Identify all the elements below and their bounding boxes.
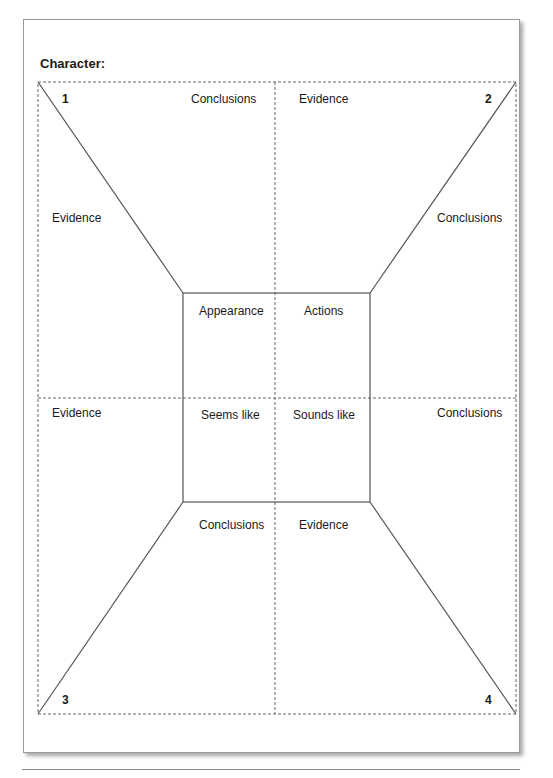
label-right-lower-conclusions: Conclusions [437, 406, 502, 420]
label-left-upper-evidence: Evidence [52, 211, 101, 225]
diagonal-top-right [370, 82, 516, 293]
center-square [183, 293, 370, 502]
label-seems-like: Seems like [201, 408, 260, 422]
corner-number-1: 1 [62, 92, 69, 106]
label-appearance: Appearance [199, 304, 264, 318]
label-left-lower-evidence: Evidence [52, 406, 101, 420]
label-bottom-left-conclusions: Conclusions [199, 518, 264, 532]
corner-number-3: 3 [62, 693, 69, 707]
label-right-upper-conclusions: Conclusions [437, 211, 502, 225]
organizer-diagram [0, 0, 553, 778]
corner-number-4: 4 [485, 693, 492, 707]
corner-number-2: 2 [485, 92, 492, 106]
diagonal-top-left [38, 82, 183, 293]
label-actions: Actions [304, 304, 343, 318]
label-bottom-right-evidence: Evidence [299, 518, 348, 532]
diagonal-bottom-left [38, 502, 183, 714]
diagonal-bottom-right [370, 502, 516, 714]
label-top-right-evidence: Evidence [299, 92, 348, 106]
label-top-left-conclusions: Conclusions [191, 92, 256, 106]
label-sounds-like: Sounds like [293, 408, 355, 422]
